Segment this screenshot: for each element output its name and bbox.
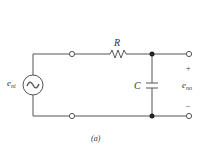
node-dot-top: [150, 52, 155, 57]
circuit-diagram: R C eni eno + – (a): [0, 0, 206, 155]
plus-sign: +: [186, 64, 191, 73]
figure-caption: (a): [91, 134, 101, 143]
minus-sign: –: [185, 101, 191, 110]
terminal-output-top: [186, 51, 191, 56]
terminal-input-bottom: [69, 113, 74, 118]
resistor-icon: [110, 50, 126, 58]
node-dot-bottom: [150, 114, 155, 119]
output-voltage-label: eno: [182, 80, 192, 91]
terminal-input-top: [69, 51, 74, 56]
sine-wave-icon: [27, 82, 39, 88]
resistor-label: R: [113, 37, 120, 48]
capacitor-label: C: [134, 80, 141, 91]
terminal-output-bottom: [186, 113, 191, 118]
input-voltage-label: eni: [7, 78, 16, 89]
